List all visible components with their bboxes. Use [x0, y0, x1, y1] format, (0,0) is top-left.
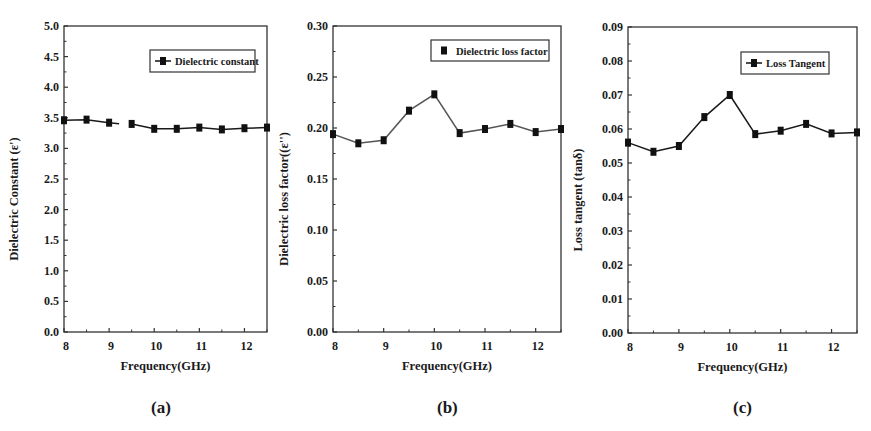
x-tick-label: 8 [627, 340, 633, 354]
data-marker [854, 128, 860, 136]
data-marker [829, 129, 835, 137]
caption-b: (b) [437, 398, 458, 418]
legend-marker [751, 59, 757, 67]
legend: Loss Tangent [741, 52, 829, 74]
data-marker [625, 139, 631, 147]
y-tick-label: 0.09 [602, 20, 623, 34]
x-tick-label: 10 [726, 340, 738, 354]
y-tick-label: 0.00 [602, 326, 623, 340]
data-marker [752, 130, 758, 138]
y-tick-label: 0.01 [602, 292, 623, 306]
figure: 0.00.51.01.52.02.53.03.54.04.55.08910111… [0, 0, 871, 431]
y-tick-label: 0.03 [602, 224, 623, 238]
caption-c: (c) [733, 398, 752, 418]
x-axis-label: Frequency(GHz) [697, 360, 787, 374]
data-marker [650, 148, 656, 156]
caption-a: (a) [151, 398, 171, 418]
data-marker [727, 91, 733, 99]
data-marker [701, 113, 707, 121]
y-tick-label: 0.06 [602, 122, 623, 136]
x-tick-label: 9 [678, 340, 684, 354]
chart-loss-tangent: 0.000.010.020.030.040.050.060.070.080.09… [0, 0, 871, 431]
y-axis-label: Loss tangent (tanδ) [571, 148, 585, 251]
x-tick-label: 12 [828, 340, 840, 354]
data-marker [803, 120, 809, 128]
y-tick-label: 0.02 [602, 258, 623, 272]
y-tick-label: 0.04 [602, 190, 623, 204]
x-tick-label: 11 [777, 340, 788, 354]
y-tick-label: 0.05 [602, 156, 623, 170]
legend-label: Loss Tangent [766, 58, 826, 69]
data-marker [778, 127, 784, 135]
y-tick-label: 0.07 [602, 88, 623, 102]
series-line [628, 95, 857, 152]
data-marker [676, 142, 682, 150]
y-tick-label: 0.08 [602, 54, 623, 68]
